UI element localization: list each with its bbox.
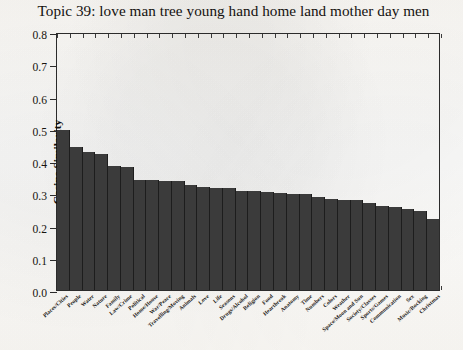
bar [108,166,121,290]
bar-series [57,34,439,290]
bar [159,181,172,290]
y-axis-tick: 0.1 [50,260,57,261]
y-axis-tick-label: 0.8 [33,29,48,42]
y-axis-tick-label: 0.5 [33,125,48,138]
bar [185,185,198,290]
y-axis-tick: 0.3 [50,195,57,196]
chart-title: Topic 39: love man tree young hand home … [6,2,461,20]
bar [236,191,249,290]
y-axis-tick: 0.8 [50,34,57,35]
y-axis-tick: 0.6 [50,99,57,100]
y-axis-tick-label: 0.4 [33,158,48,171]
x-axis-tick-label: Love [197,293,210,306]
bottom-axis-tick [441,286,442,290]
y-axis-tick: 0.7 [50,66,57,67]
chart-figure: Topic 39: love man tree young hand home … [0,0,463,350]
bar [146,180,159,290]
bar [363,203,376,290]
bar [351,200,364,290]
bar [134,180,147,290]
y-axis-tick: 0.2 [50,228,57,229]
bar [197,187,210,290]
bar [223,188,236,290]
bar [70,147,83,290]
y-axis-tick: 0.4 [50,163,57,164]
bar [248,191,261,290]
bar [402,209,415,290]
bar [210,188,223,290]
x-axis-tick-label: People [66,293,82,308]
bar [83,152,96,290]
plot-area: Cosine Similarity 0.00.10.20.30.40.50.60… [56,33,440,291]
y-axis-tick-label: 0.1 [33,254,48,267]
bar [427,219,439,290]
y-axis-tick-label: 0.6 [33,93,48,106]
bar [274,193,287,290]
bar [261,192,274,290]
bar [172,181,185,290]
bar [57,130,70,290]
bar [376,206,389,290]
y-axis-tick-label: 0.7 [33,61,48,74]
bar [389,207,402,290]
bar [300,194,313,290]
bar [121,167,134,290]
top-axis-tick [441,34,442,38]
y-axis-tick-label: 0.3 [33,190,48,203]
bar [338,200,351,290]
bar [287,194,300,290]
y-axis-tick-label: 0.2 [33,222,48,235]
y-axis-tick-label: 0.0 [33,287,48,300]
bar [95,154,108,290]
x-axis-tick-labels: Places/CitiesPeopleWaterNatureFamilyLaw/… [56,293,440,350]
bar [414,211,427,290]
bar [325,199,338,290]
bar [312,197,325,290]
y-axis-tick: 0.5 [50,131,57,132]
